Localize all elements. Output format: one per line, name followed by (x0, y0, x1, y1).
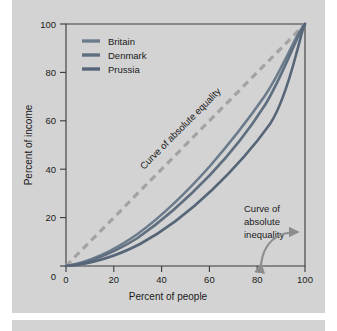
lorenz-curve-chart: 100 80 60 40 20 0 0 20 40 60 80 100 (12, 0, 325, 313)
legend-label-britain: Britain (108, 36, 135, 47)
y-axis-ticks (60, 24, 66, 266)
x-tick-label-20: 20 (109, 274, 120, 285)
inequality-annotation: Curve of absolute inequality (244, 203, 298, 264)
legend-label-denmark: Denmark (108, 50, 147, 61)
inequality-annotation-line2: absolute (244, 216, 280, 227)
legend-label-prussia: Prussia (108, 64, 140, 75)
y-tick-label-0: 0 (51, 271, 56, 282)
legend: Britain Denmark Prussia (82, 36, 147, 75)
bottom-strip (12, 320, 325, 331)
chart-panel: 100 80 60 40 20 0 0 20 40 60 80 100 (12, 0, 325, 313)
x-tick-label-80: 80 (252, 274, 263, 285)
x-axis-title: Percent of people (129, 291, 208, 302)
equality-annotation-label: Curve of absolute equality (138, 85, 223, 171)
x-tick-label-40: 40 (156, 274, 167, 285)
y-tick-label-100: 100 (40, 19, 56, 30)
y-tick-label-20: 20 (45, 212, 56, 223)
y-tick-label-40: 40 (45, 164, 56, 175)
x-axis-ticks (66, 266, 305, 272)
y-axis-title: Percent of income (23, 104, 34, 185)
inequality-annotation-line1: Curve of (244, 203, 280, 214)
x-tick-label-0: 0 (63, 274, 68, 285)
x-tick-label-60: 60 (204, 274, 215, 285)
y-tick-label-60: 60 (45, 115, 56, 126)
inequality-annotation-line3: inequality (244, 229, 284, 240)
figure-root: 100 80 60 40 20 0 0 20 40 60 80 100 (0, 0, 337, 331)
x-tick-label-100: 100 (297, 274, 313, 285)
y-tick-label-80: 80 (45, 67, 56, 78)
